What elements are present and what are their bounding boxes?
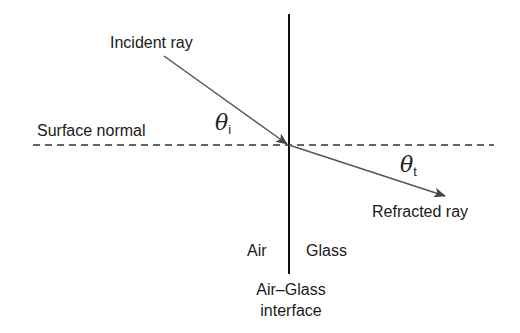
glass-label: Glass (306, 242, 347, 260)
theta-incident-symbol: θi (215, 110, 231, 137)
incident-ray-label: Incident ray (110, 34, 193, 52)
theta-transmitted-symbol: θt (400, 152, 417, 179)
surface-normal-label: Surface normal (37, 122, 146, 140)
refracted-ray-arrow (289, 145, 445, 196)
interface-label-line1: Air–Glass (236, 281, 346, 299)
refracted-ray-label: Refracted ray (372, 203, 468, 221)
interface-label-line2: interface (236, 302, 346, 320)
air-label: Air (247, 242, 267, 260)
